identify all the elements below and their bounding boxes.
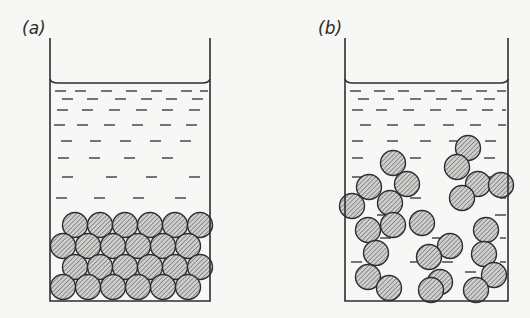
particle [76, 275, 101, 300]
particle [364, 241, 389, 266]
liquid-surface [50, 79, 210, 83]
beaker-a-sedimented [50, 38, 213, 301]
liquid-surface [345, 79, 508, 83]
beaker-b-flocculated [340, 38, 514, 303]
particle [381, 151, 406, 176]
particle [489, 173, 514, 198]
particle [340, 194, 365, 219]
particles [51, 213, 213, 300]
particle [450, 186, 475, 211]
particle [381, 213, 406, 238]
particles [340, 136, 514, 303]
particle [378, 191, 403, 216]
particle [176, 275, 201, 300]
particle [464, 278, 489, 303]
particle [445, 155, 470, 180]
particle [356, 218, 381, 243]
particle [417, 245, 442, 270]
particle [377, 276, 402, 301]
particle [474, 218, 499, 243]
particle [101, 275, 126, 300]
particle [151, 275, 176, 300]
particle [51, 275, 76, 300]
liquid-dashes [54, 91, 208, 198]
particle [126, 275, 151, 300]
particle [419, 278, 444, 303]
diagram-canvas [0, 0, 530, 318]
particle [410, 211, 435, 236]
